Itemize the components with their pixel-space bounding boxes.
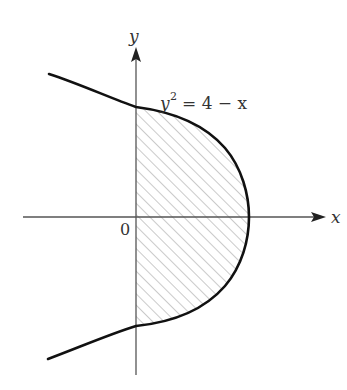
svg-text:= 4 − x: = 4 − x — [182, 93, 248, 113]
curve-equation-label: y 2 = 4 − x — [159, 90, 248, 113]
svg-text:y: y — [159, 93, 170, 113]
svg-text:2: 2 — [170, 90, 177, 103]
origin-label: 0 — [120, 220, 130, 239]
y-axis-label: y — [128, 26, 139, 46]
x-axis-label: x — [331, 207, 341, 227]
parabola-area-diagram: y x 0 y 2 = 4 − x — [0, 0, 347, 390]
